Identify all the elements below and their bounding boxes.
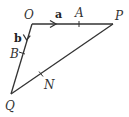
label-vector-b: b [14,32,22,45]
label-n-point: N [43,78,55,92]
side-pq [11,24,113,94]
label-o: O [24,8,34,22]
label-p: P [114,9,124,23]
vector-triangle-diagram: O P Q A B N a b [0,0,129,117]
label-vector-a: a [55,8,62,21]
label-q: Q [5,99,15,113]
label-a-point: A [74,6,84,20]
label-b-point: B [9,47,19,61]
